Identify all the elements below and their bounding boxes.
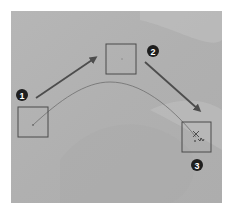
step-marker-3: 3	[191, 159, 203, 171]
anchor-point-icon	[32, 124, 34, 126]
step-marker-label: 2	[150, 47, 155, 57]
anchor-point-icon	[121, 58, 123, 60]
step-marker-1: 1	[16, 89, 28, 101]
step-marker-2: 2	[147, 45, 159, 57]
motion-path-diagram: 1 2 3	[0, 0, 230, 214]
step-marker-label: 1	[19, 91, 24, 101]
step-marker-label: 3	[194, 161, 199, 171]
